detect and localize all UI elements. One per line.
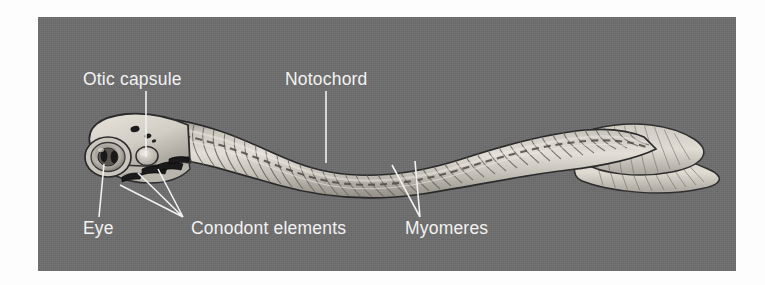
eye <box>85 137 131 177</box>
figure-root: Otic capsule Notochord Eye Conodont elem… <box>0 0 765 285</box>
conodont-anatomy-diagram: Otic capsule Notochord Eye Conodont elem… <box>38 17 736 271</box>
head <box>85 114 190 183</box>
label-conodont-elements: Conodont elements <box>191 218 346 238</box>
label-notochord: Notochord <box>285 69 368 89</box>
otic-capsule <box>136 147 158 166</box>
label-myomeres: Myomeres <box>405 218 488 238</box>
label-otic-capsule: Otic capsule <box>83 69 182 89</box>
label-eye: Eye <box>83 218 114 238</box>
illustration-panel: Otic capsule Notochord Eye Conodont elem… <box>38 17 736 271</box>
